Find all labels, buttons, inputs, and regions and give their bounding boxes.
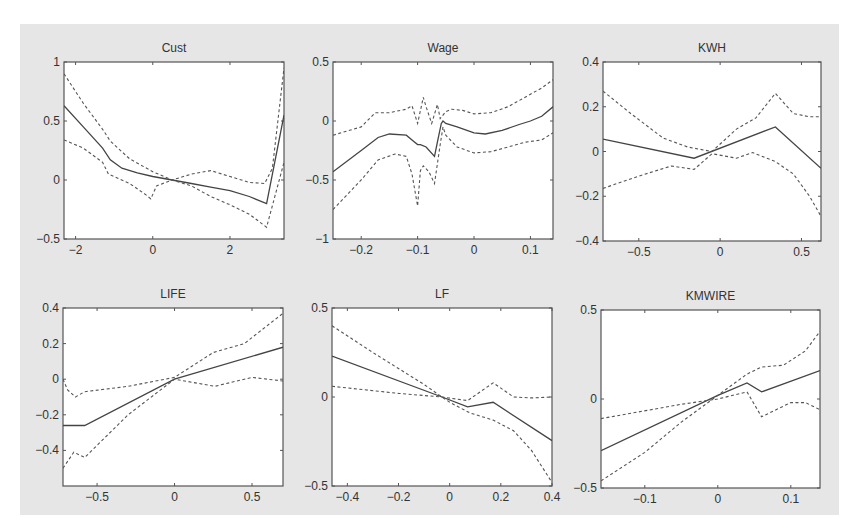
x-tick-label: −0.1 bbox=[406, 243, 430, 257]
y-tick-label: 0.5 bbox=[43, 114, 60, 128]
y-tick-label: 0.5 bbox=[312, 55, 329, 69]
x-tick-label: −0.5 bbox=[627, 245, 651, 259]
y-tick-label: 0.2 bbox=[42, 337, 59, 351]
subplot-title: KWH bbox=[698, 41, 726, 55]
y-tick-label: 0.2 bbox=[582, 100, 599, 114]
y-tick-label: −0.5 bbox=[304, 479, 328, 493]
y-tick-label: −0.5 bbox=[36, 232, 60, 246]
y-tick-label: −0.2 bbox=[35, 408, 59, 422]
partial-dependence-figure: Cust−202−0.500.51Wage−0.2−0.100.1−1−0.50… bbox=[0, 0, 858, 532]
x-tick-label: −0.2 bbox=[349, 243, 373, 257]
y-tick-label: −0.5 bbox=[573, 481, 597, 495]
x-tick-label: 0 bbox=[717, 245, 724, 259]
y-tick-label: 1 bbox=[53, 55, 60, 69]
x-tick-label: 0.2 bbox=[492, 490, 509, 504]
y-tick-label: 0.5 bbox=[311, 301, 328, 315]
y-tick-label: 0 bbox=[590, 392, 597, 406]
y-tick-label: 0 bbox=[321, 390, 328, 404]
y-tick-label: −0.5 bbox=[305, 173, 329, 187]
x-tick-label: 0.5 bbox=[244, 490, 261, 504]
x-tick-label: 0.1 bbox=[782, 492, 799, 506]
y-tick-label: 0.4 bbox=[582, 55, 599, 69]
x-tick-label: 0 bbox=[171, 490, 178, 504]
x-tick-label: 0 bbox=[446, 490, 453, 504]
y-tick-label: −1 bbox=[315, 232, 329, 246]
x-tick-label: 2 bbox=[227, 243, 234, 257]
y-tick-label: −0.4 bbox=[575, 234, 599, 248]
x-tick-label: −2 bbox=[69, 243, 83, 257]
subplot-cust: Cust−202−0.500.51 bbox=[36, 41, 284, 257]
x-tick-label: 0 bbox=[149, 243, 156, 257]
subplot-title: KMWIRE bbox=[686, 289, 735, 303]
x-tick-label: −0.4 bbox=[335, 490, 359, 504]
x-tick-label: 0.1 bbox=[522, 243, 539, 257]
subplot-lf: LF−0.4−0.200.20.4−0.500.5 bbox=[304, 287, 560, 504]
x-tick-label: 0 bbox=[714, 492, 721, 506]
plot-area bbox=[64, 62, 284, 239]
plot-area bbox=[333, 62, 553, 239]
x-tick-label: 0 bbox=[471, 243, 478, 257]
subplot-wage: Wage−0.2−0.100.1−1−0.500.5 bbox=[305, 41, 553, 257]
subplot-life: LIFE−0.500.5−0.4−0.200.20.4 bbox=[35, 287, 283, 504]
subplot-title: LIFE bbox=[160, 287, 185, 301]
y-tick-label: 0.4 bbox=[42, 301, 59, 315]
y-tick-label: −0.4 bbox=[35, 443, 59, 457]
subplot-title: LF bbox=[435, 287, 449, 301]
y-tick-label: 0 bbox=[592, 145, 599, 159]
x-tick-label: −0.1 bbox=[633, 492, 657, 506]
x-tick-label: −0.2 bbox=[387, 490, 411, 504]
x-tick-label: 0.4 bbox=[544, 490, 561, 504]
x-tick-label: 0.5 bbox=[793, 245, 810, 259]
y-tick-label: 0 bbox=[322, 114, 329, 128]
subplot-title: Wage bbox=[428, 41, 459, 55]
subplot-kmwire: KMWIRE−0.100.1−0.500.5 bbox=[573, 289, 820, 506]
y-tick-label: 0 bbox=[52, 372, 59, 386]
y-tick-label: 0 bbox=[53, 173, 60, 187]
x-tick-label: −0.5 bbox=[85, 490, 109, 504]
plot-area bbox=[63, 308, 283, 486]
y-tick-label: 0.5 bbox=[580, 303, 597, 317]
subplot-title: Cust bbox=[162, 41, 187, 55]
subplot-kwh: KWH−0.500.5−0.4−0.200.20.4 bbox=[575, 41, 821, 259]
y-tick-label: −0.2 bbox=[575, 189, 599, 203]
